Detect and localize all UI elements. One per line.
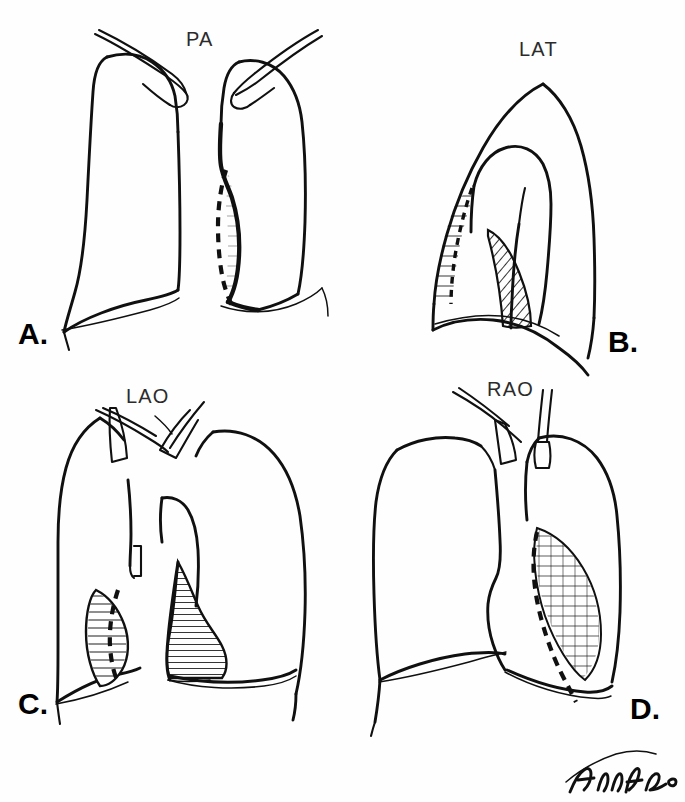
panel-c-letter: C. <box>18 687 48 721</box>
panel-b-letter: B. <box>608 325 638 359</box>
panel-d-view-label: RAO <box>487 378 534 401</box>
panel-d-letter: D. <box>630 692 660 726</box>
panel-d-drawing <box>343 380 685 802</box>
panel-a-letter: A. <box>18 317 48 351</box>
panel-b-drawing <box>343 0 685 380</box>
stippled-lesion-region-d <box>534 528 601 680</box>
panel-c-view-label: LAO <box>126 385 170 408</box>
artist-signature <box>560 748 685 796</box>
panel-b-view-label: LAT <box>519 38 558 61</box>
figure-canvas: PA LAT LAO RAO A. B. C. D. <box>0 0 685 802</box>
panel-a-view-label: PA <box>186 28 214 51</box>
panel-c-drawing <box>0 380 343 760</box>
panel-a-drawing <box>0 0 343 380</box>
hatched-lesion-region-b <box>488 230 531 328</box>
